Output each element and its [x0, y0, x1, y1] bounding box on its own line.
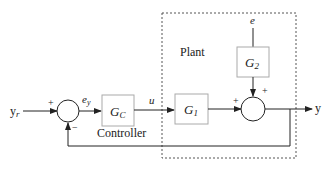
sum1-minus-sign: − — [72, 122, 78, 133]
output-label: y — [315, 101, 321, 115]
control-signal-label: u — [149, 94, 155, 106]
summing-junction-2 — [241, 97, 265, 121]
sum1-plus-sign: + — [48, 97, 54, 108]
error-signal-label: ey — [82, 93, 91, 107]
plant-boundary — [162, 13, 296, 158]
block-diagram: Plant yr + − ey GC Controller u G1 + e G… — [0, 0, 330, 172]
sum2-top-plus-sign: + — [262, 85, 268, 96]
plant-label: Plant — [180, 45, 205, 59]
reference-input-label: yr — [10, 104, 20, 119]
summing-junction-1 — [57, 100, 79, 122]
disturbance-label: e — [250, 14, 255, 26]
controller-caption: Controller — [97, 126, 146, 140]
sum2-left-plus-sign: + — [233, 95, 239, 106]
